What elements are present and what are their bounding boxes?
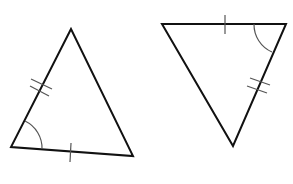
left-triangle-outline (11, 29, 133, 156)
angle-arc (254, 24, 272, 52)
right-triangle-outline (162, 24, 286, 146)
congruent-triangles-figure (0, 0, 293, 184)
single-tick-mark (70, 143, 71, 162)
double-tick-mark-2 (30, 86, 49, 96)
left-triangle (11, 29, 133, 162)
angle-arc (25, 121, 42, 149)
right-triangle (162, 15, 286, 146)
